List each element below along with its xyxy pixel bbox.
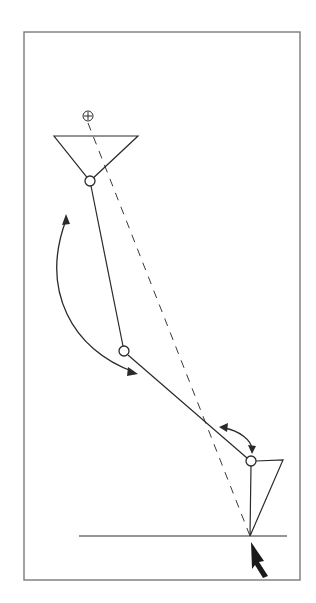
center-of-mass-icon — [83, 111, 93, 121]
upper-joint — [85, 176, 95, 186]
line-of-action — [88, 123, 250, 536]
middle-joint — [119, 346, 129, 356]
force-arrow-icon — [251, 542, 268, 578]
lower-joint — [246, 456, 256, 466]
lower-segment — [128, 355, 247, 458]
diagram-frame — [24, 32, 300, 580]
foot-triangle — [250, 460, 283, 536]
upper-segment — [91, 186, 123, 346]
diagram-canvas — [0, 0, 316, 603]
